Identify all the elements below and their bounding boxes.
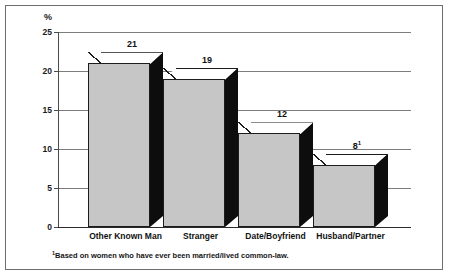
bar-side-face: [150, 52, 163, 227]
x-axis-category-label: Husband/Partner: [298, 231, 404, 241]
bar-value-label: 19: [176, 55, 238, 65]
bar-value-label: 81: [326, 141, 388, 151]
footnote: 1Based on women who have ever been marri…: [52, 251, 289, 260]
bar-side-face: [375, 154, 388, 227]
bar-front-face: [163, 79, 225, 227]
y-axis-tick-label: 15: [30, 105, 52, 115]
y-axis-tick-label: 20: [30, 66, 52, 76]
y-axis-tick-label: 5: [30, 183, 52, 193]
x-axis-line: [58, 227, 411, 228]
y-axis-tick-label: 0: [30, 222, 52, 232]
bar-front-face: [88, 63, 150, 227]
bar-side-face: [300, 122, 313, 227]
bar-value-label: 21: [101, 39, 163, 49]
y-axis-unit-label: %: [44, 12, 52, 22]
chart-figure: % 0510152025 21191281 Other Known ManStr…: [0, 0, 452, 277]
bar-front-face: [238, 133, 300, 227]
footnote-text: Based on women who have ever been marrie…: [55, 251, 289, 260]
bar-value-label: 12: [251, 109, 313, 119]
bar-side-face: [225, 68, 238, 227]
y-axis-tick-label: 25: [30, 27, 52, 37]
bar-value-footnote-marker: 1: [358, 140, 361, 146]
y-axis-tick-label: 10: [30, 144, 52, 154]
bar-front-face: [313, 165, 375, 227]
